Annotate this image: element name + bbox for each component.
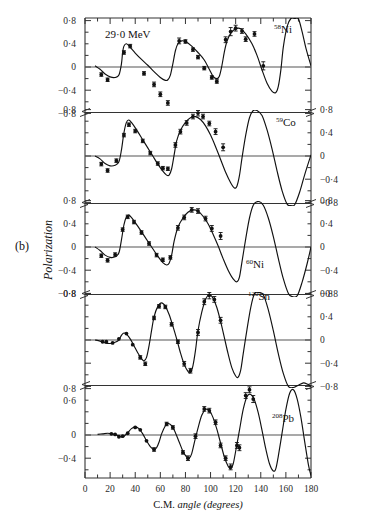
data-point: [131, 343, 135, 347]
polarization-plot-svg: −0·8−0·400·40·8−0·8−0·400·40·8−0·8−0·400…: [0, 0, 367, 513]
data-point: [207, 122, 211, 126]
data-point: [166, 167, 170, 171]
data-point: [177, 39, 181, 43]
data-point: [128, 44, 132, 48]
svg-text:120Sn: 120Sn: [248, 290, 271, 302]
polarization-figure: −0·8−0·400·40·8−0·8−0·400·40·8−0·8−0·400…: [0, 0, 367, 513]
y-tick-label: 0·8: [63, 384, 76, 394]
data-point: [229, 30, 233, 34]
data-point: [238, 446, 242, 450]
data-point: [125, 332, 129, 336]
energy-annotation: 29·0 MeV: [105, 28, 151, 40]
data-point: [248, 388, 252, 392]
panel-separators: [85, 113, 311, 386]
svg-text:59Co: 59Co: [276, 116, 296, 128]
data-point: [196, 331, 200, 335]
data-points: [101, 293, 223, 374]
data-point: [148, 151, 152, 155]
data-point: [99, 162, 103, 166]
data-point: [122, 51, 126, 55]
x-tick-label: 140: [254, 484, 269, 494]
figure-panel-label: (b): [15, 239, 29, 253]
data-point: [186, 456, 190, 460]
nucleus-label-Co-59: 59Co: [276, 116, 296, 128]
y-tick-label: 0·4: [63, 219, 76, 229]
y-tick-label: 0: [71, 242, 76, 252]
data-point: [219, 444, 223, 448]
data-point: [121, 228, 125, 232]
panel-Ni-60: [95, 202, 311, 298]
data-point: [182, 216, 186, 220]
nucleus-label-Sn-120: 120Sn: [248, 290, 271, 302]
data-point: [113, 253, 117, 257]
data-point: [161, 258, 165, 262]
y-tick-label: 0·8: [320, 105, 333, 115]
y-tick-label: 0·6: [63, 396, 76, 406]
data-point: [253, 32, 257, 36]
data-point: [142, 71, 146, 75]
data-point: [210, 76, 214, 80]
data-point: [121, 434, 125, 438]
y-tick-label: 0·8: [63, 289, 76, 299]
y-tick-label: −0·4: [58, 86, 76, 96]
data-point: [176, 340, 180, 344]
y-tick-label: −0·8: [320, 382, 338, 392]
data-point: [244, 394, 248, 398]
data-point: [156, 162, 160, 166]
data-point: [158, 92, 162, 96]
x-tick-label: 0: [83, 484, 88, 494]
data-point: [179, 130, 183, 134]
data-point: [106, 258, 110, 262]
data-point: [196, 55, 200, 59]
data-point: [132, 220, 136, 224]
x-tick-label: 160: [279, 484, 294, 494]
data-point: [106, 78, 110, 82]
x-tick-label: 180: [304, 484, 319, 494]
data-point: [117, 435, 121, 439]
data-point: [215, 80, 219, 84]
y-tick-label: 0: [71, 62, 76, 72]
data-point: [224, 38, 228, 42]
data-point: [194, 434, 198, 438]
data-point: [196, 111, 200, 115]
data-point: [126, 215, 130, 219]
y-tick-label: 0·4: [320, 312, 333, 322]
data-point: [127, 123, 131, 127]
data-point: [138, 356, 142, 360]
x-tick-label: 100: [203, 484, 218, 494]
x-axis-title: C.M. angle (degrees): [153, 499, 243, 511]
data-point: [184, 40, 188, 44]
data-point: [185, 121, 189, 125]
data-point: [166, 101, 170, 105]
y-tick-label: −0·4: [58, 454, 76, 464]
y-tick-label: −0·4: [320, 266, 338, 276]
y-tick-label: −0·4: [320, 175, 338, 185]
data-point: [191, 48, 195, 52]
data-point: [207, 409, 211, 413]
data-point: [111, 341, 115, 345]
data-point: [234, 26, 238, 30]
data-point: [161, 166, 165, 170]
data-point: [219, 318, 223, 322]
data-point: [182, 362, 186, 366]
data-point: [140, 231, 144, 235]
y-tick-label: 0: [320, 151, 325, 161]
data-point: [101, 340, 105, 344]
y-tick-label: 0·8: [63, 16, 76, 26]
nucleus-label-Ni-60: 60Ni: [246, 258, 264, 270]
data-point: [114, 159, 118, 163]
data-point: [106, 169, 110, 173]
data-point: [181, 451, 185, 455]
data-point: [155, 253, 159, 257]
data-point: [251, 397, 255, 401]
y-tick-label: 0·8: [63, 105, 76, 115]
data-point: [165, 422, 169, 426]
data-point: [126, 431, 130, 435]
y-axis-title: Polarization: [41, 220, 55, 281]
data-point: [168, 256, 172, 260]
data-point: [204, 217, 208, 221]
y-tick-label: 0·8: [63, 196, 76, 206]
x-tick-label: 120: [229, 484, 244, 494]
data-point: [189, 369, 193, 373]
data-point: [196, 209, 200, 213]
